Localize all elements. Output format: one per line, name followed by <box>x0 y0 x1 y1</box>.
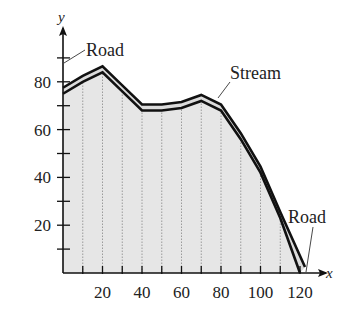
road-bottom-leader <box>306 227 313 272</box>
x-tick-label: 20 <box>94 283 111 302</box>
road-top-annotation: Road <box>86 40 124 60</box>
y-tick-label: 20 <box>34 216 51 235</box>
y-tick-label: 80 <box>34 73 51 92</box>
road-bottom-annotation: Road <box>288 207 326 227</box>
y-tick-label: 60 <box>34 121 51 140</box>
x-tick-label: 40 <box>134 283 151 302</box>
road-top-leader <box>64 50 85 63</box>
x-tick-label: 60 <box>173 283 190 302</box>
stream-road-region-chart: 2040608010012020406080 y x Road Stream R… <box>0 0 356 318</box>
stream-annotation: Stream <box>230 63 281 83</box>
region-fill <box>63 66 305 273</box>
x-tick-label: 100 <box>248 283 274 302</box>
stream-leader <box>218 82 230 98</box>
y-tick-label: 40 <box>34 168 51 187</box>
y-axis-label: y <box>56 9 65 25</box>
x-axis-label: x <box>325 265 333 281</box>
x-tick-label: 80 <box>213 283 230 302</box>
x-tick-label: 120 <box>287 283 313 302</box>
